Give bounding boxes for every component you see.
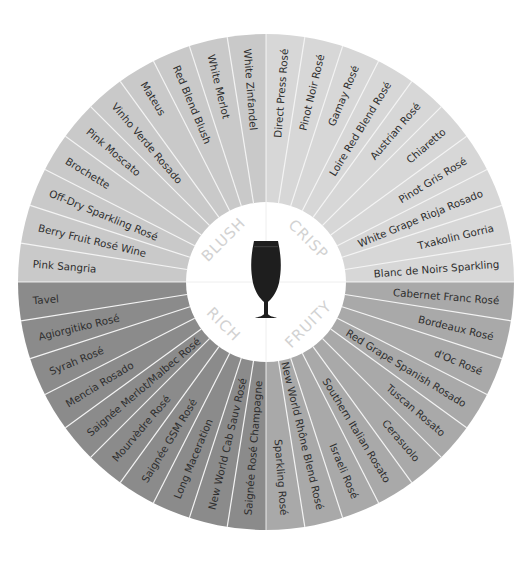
rose-wine-style-wheel: Pink SangriaBerry Fruit Rosé WineOff-Dry… — [0, 0, 527, 562]
wedge-label: Tavel — [31, 292, 59, 306]
